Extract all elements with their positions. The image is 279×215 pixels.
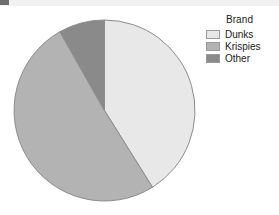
corner-artifact [0, 0, 9, 5]
legend-title: Brand [206, 14, 279, 25]
legend-label-dunks: Dunks [225, 29, 253, 40]
legend-item-other[interactable]: Other [206, 53, 279, 64]
legend-label-krispies: Krispies [225, 41, 261, 52]
pie-chart-plot [13, 19, 196, 202]
legend-item-krispies[interactable]: Krispies [206, 41, 279, 52]
legend-swatch-krispies [206, 42, 220, 51]
pie-slices [14, 20, 195, 201]
legend-item-dunks[interactable]: Dunks [206, 29, 279, 40]
top-scan-band [0, 0, 279, 6]
legend: Brand Dunks Krispies Other [206, 14, 279, 65]
pie-chart-screenshot: Brand Dunks Krispies Other [0, 0, 279, 215]
pie-svg [13, 19, 196, 202]
legend-swatch-other [206, 54, 220, 63]
legend-label-other: Other [225, 53, 250, 64]
legend-swatch-dunks [206, 30, 220, 39]
